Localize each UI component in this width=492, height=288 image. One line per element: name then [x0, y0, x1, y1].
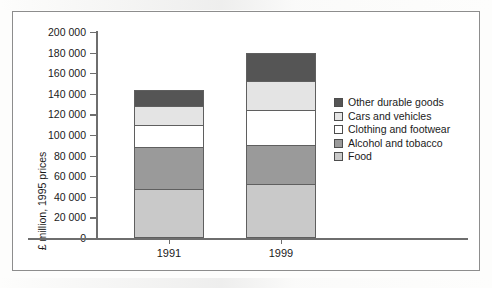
y-axis-tick-label: 40 000 — [26, 192, 86, 202]
legend-item: Food — [334, 150, 474, 164]
y-axis-tick-label: 160 000 — [26, 68, 86, 78]
legend-item: Clothing and footwear — [334, 123, 474, 137]
y-axis-tick-label: 120 000 — [26, 109, 86, 119]
y-axis-tick-label: 180 000 — [26, 48, 86, 58]
bar-segment-food — [134, 189, 204, 238]
x-axis-tick — [169, 238, 170, 244]
bar-segment-other-durable-goods — [134, 90, 204, 106]
bar-segment-clothing-and-footwear — [134, 125, 204, 148]
legend-swatch-icon — [334, 152, 343, 161]
y-axis-tick-label: 60 000 — [26, 171, 86, 181]
legend-item-label: Clothing and footwear — [348, 124, 450, 135]
x-axis-label-1991: 1991 — [129, 247, 209, 259]
chart-screenshot: £ million, 1995 prices 200 000180 000160… — [0, 0, 492, 288]
y-axis-tick-label: 20 000 — [26, 212, 86, 222]
x-axis-line — [28, 238, 468, 240]
legend-item-label: Cars and vehicles — [348, 111, 431, 122]
legend-item-label: Alcohol and tobacco — [348, 138, 443, 149]
bar-segment-cars-and-vehicles — [246, 81, 316, 110]
legend-swatch-icon — [334, 112, 343, 121]
x-axis-label-1999: 1999 — [241, 247, 321, 259]
legend-swatch-icon — [334, 139, 343, 148]
legend-item-label: Other durable goods — [348, 97, 444, 108]
bar-segment-cars-and-vehicles — [134, 106, 204, 125]
bar-segment-alcohol-and-tobacco — [134, 147, 204, 188]
legend-swatch-icon — [334, 98, 343, 107]
legend-item: Other durable goods — [334, 96, 474, 110]
legend-item: Cars and vehicles — [334, 110, 474, 124]
chart-legend: Other durable goodsCars and vehiclesClot… — [334, 96, 474, 164]
legend-swatch-icon — [334, 125, 343, 134]
x-axis-tick — [281, 238, 282, 244]
bar-segment-clothing-and-footwear — [246, 110, 316, 145]
legend-item-label: Food — [348, 151, 372, 162]
bar-segment-food — [246, 184, 316, 238]
y-axis-tick-label: 200 000 — [26, 27, 86, 37]
bar-1999 — [246, 53, 316, 238]
y-axis-tick-label: 100 000 — [26, 130, 86, 140]
bar-segment-alcohol-and-tobacco — [246, 145, 316, 184]
y-axis-labels: 200 000180 000160 000140 000120 000100 0… — [20, 0, 86, 288]
bar-1991 — [134, 90, 204, 238]
y-axis-tick-label: 140 000 — [26, 89, 86, 99]
y-axis-tick-label: 80 000 — [26, 151, 86, 161]
legend-item: Alcohol and tobacco — [334, 137, 474, 151]
bar-segment-other-durable-goods — [246, 53, 316, 82]
